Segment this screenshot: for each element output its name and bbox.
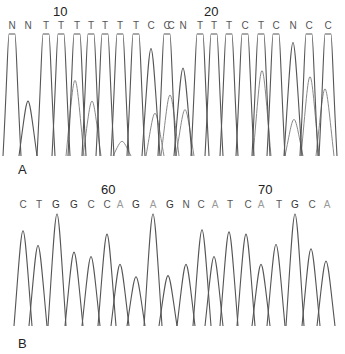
- trace-peak: [316, 89, 334, 156]
- panel-label-a: A: [18, 162, 27, 177]
- position-marker-60: 60: [101, 182, 115, 197]
- trace-peak: [267, 244, 285, 326]
- trace-peak: [127, 277, 145, 326]
- trace-peak: [317, 261, 335, 326]
- trace-peak: [82, 257, 100, 326]
- trace-peak: [177, 264, 195, 326]
- position-marker-20: 20: [204, 4, 218, 19]
- trace-peak: [98, 234, 116, 326]
- trace-peak: [144, 214, 162, 326]
- chromatogram-panel-a: 10 20 NNTTTTTTTCCCNTTTCTCNCC A: [0, 0, 345, 178]
- trace-peak: [48, 214, 66, 326]
- trace-peak: [19, 101, 37, 156]
- position-marker-70: 70: [258, 182, 272, 197]
- panel-label-b: B: [18, 336, 27, 351]
- trace-peak: [286, 214, 304, 326]
- trace-peak: [236, 34, 254, 156]
- trace-peak: [65, 252, 83, 326]
- trace-peak: [174, 68, 192, 156]
- trace-peak: [193, 230, 211, 326]
- position-marker-10: 10: [53, 4, 67, 19]
- trace-peak: [29, 245, 47, 326]
- trace-peak: [127, 34, 145, 156]
- trace-peak: [3, 34, 21, 156]
- trace-peak: [14, 231, 32, 326]
- trace-peak: [237, 234, 255, 326]
- trace-peak: [319, 34, 337, 156]
- chromatogram-panel-b: 60 70 CTGGCCAGAGNCATCATGCA B: [0, 178, 345, 354]
- trace-peak: [111, 34, 129, 156]
- chromatogram-trace-a: [0, 30, 345, 160]
- trace-peak: [220, 34, 238, 156]
- chromatogram-trace-b: [0, 210, 345, 330]
- trace-peak: [37, 34, 55, 156]
- trace-peak: [220, 232, 238, 326]
- trace-peak: [302, 249, 320, 326]
